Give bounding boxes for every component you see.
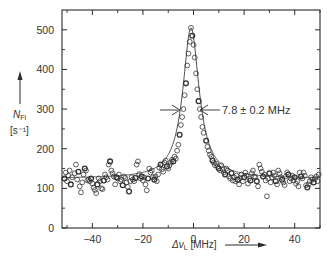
data-point [143,182,148,187]
data-point [144,188,149,193]
data-point [108,159,113,164]
data-point [175,148,180,153]
data-point [176,142,181,147]
data-point [177,132,182,137]
x-axis-label: ΔνL [MHz] [171,239,267,251]
y-axis-ticks: 0100200300400500 [36,24,320,234]
data-point [74,162,79,167]
data-point [178,123,183,128]
y-tick-label: 0 [48,222,54,234]
data-point [273,179,278,184]
data-point [113,182,118,187]
data-point [276,168,281,173]
x-tick-label: 40 [289,233,301,245]
data-point [256,184,261,189]
data-point [264,194,269,199]
data-point [201,130,206,135]
data-point [127,189,132,194]
data-point [182,93,187,98]
x-tick-label: −40 [83,233,101,245]
data-point [80,180,85,185]
data-point [67,168,72,173]
fit-curve [62,28,320,178]
x-axis-title: ΔνL [MHz] [171,239,217,251]
data-point [181,107,186,112]
data-point [94,191,99,196]
data-point [251,168,256,173]
data-point [180,115,185,120]
data-point [75,177,80,182]
lorentzian-fit-line [62,28,320,178]
y-axis-symbol: NFl [13,109,27,121]
data-point [282,183,287,188]
y-tick-label: 200 [36,143,54,155]
x-tick-label: −20 [134,233,152,245]
x-tick-label: 20 [238,233,250,245]
y-tick-label: 300 [36,103,54,115]
lorentzian-resonance-chart: −40−2002040 0100200300400500 NFl [s⁻¹] Δ… [0,0,327,267]
data-point [79,190,84,195]
fwhm-label: 7.8 ± 0.2 MHz [222,104,290,116]
data-point [190,33,195,38]
data-point [192,55,197,60]
y-axis-label: NFl [s⁻¹] [10,71,29,136]
plot-frame [62,10,320,228]
data-point [191,42,196,47]
x-axis-arrowhead-icon [258,243,267,248]
data-point [184,81,189,86]
x-axis-ticks: −40−2002040 [67,10,320,245]
data-point [200,125,205,130]
data-point [125,184,130,189]
data-point [110,171,115,176]
y-tick-label: 400 [36,63,54,75]
data-point [135,159,140,164]
y-tick-label: 500 [36,24,54,36]
data-point [268,180,273,185]
data-point [68,182,73,187]
data-point [134,162,139,167]
data-point [243,170,248,175]
data-point [95,182,100,187]
y-tick-label: 100 [36,182,54,194]
data-point [109,168,114,173]
y-axis-units: [s⁻¹] [10,125,29,136]
y-axis-arrowhead-icon [18,71,23,80]
